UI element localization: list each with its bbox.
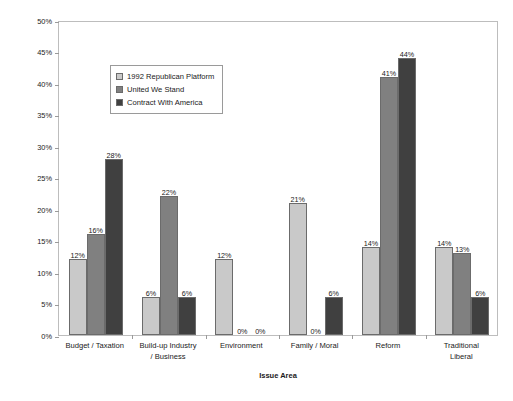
- y-tick-label: 10%: [37, 269, 52, 278]
- x-axis-category-line: Build-up Industry: [126, 341, 209, 352]
- bar: [289, 203, 307, 335]
- x-axis-category-line: Environment: [200, 341, 283, 352]
- legend-swatch-icon: [116, 73, 123, 80]
- bar: [142, 297, 160, 335]
- x-axis-separator-tick: [279, 335, 280, 339]
- bar-value-label: 22%: [153, 188, 185, 197]
- bar: [325, 297, 343, 335]
- y-tick-label: 5%: [41, 300, 52, 309]
- bar-value-label: 12%: [208, 251, 240, 260]
- x-axis-category-label: Reform: [346, 341, 429, 352]
- y-tick-mark: [55, 274, 59, 275]
- bar-value-label: 44%: [391, 50, 423, 59]
- x-axis-category-label: TraditionalLiberal: [420, 341, 503, 362]
- x-axis-category-label: Build-up Industry/ Business: [126, 341, 209, 362]
- y-tick-mark: [55, 305, 59, 306]
- y-tick-label: 25%: [37, 174, 52, 183]
- x-axis-category-label: Environment: [200, 341, 283, 352]
- y-tick-mark: [55, 337, 59, 338]
- y-tick-mark: [55, 179, 59, 180]
- y-tick-mark: [55, 148, 59, 149]
- bar-value-label: 28%: [98, 151, 130, 160]
- bar-chart: Percentage of Platform Dedicated to Issu…: [0, 0, 513, 401]
- bar: [435, 247, 453, 335]
- legend-swatch-icon: [116, 99, 123, 106]
- x-axis-category-line: / Business: [126, 352, 209, 363]
- y-tick-mark: [55, 22, 59, 23]
- bar: [178, 297, 196, 335]
- x-axis-category-label: Budget / Taxation: [53, 341, 136, 352]
- bar: [87, 234, 105, 335]
- x-axis-separator-tick: [132, 335, 133, 339]
- y-tick-label: 45%: [37, 48, 52, 57]
- y-tick-label: 35%: [37, 111, 52, 120]
- y-tick-label: 50%: [37, 17, 52, 26]
- legend-swatch-icon: [116, 86, 123, 93]
- legend-label: 1992 Republican Platform: [127, 72, 214, 81]
- legend-item: United We Stand: [116, 83, 214, 96]
- y-tick-mark: [55, 211, 59, 212]
- x-axis-separator-tick: [352, 335, 353, 339]
- bar: [105, 159, 123, 335]
- y-tick-mark: [55, 116, 59, 117]
- y-tick-mark: [55, 53, 59, 54]
- x-axis-separator-tick: [426, 335, 427, 339]
- legend-item: 1992 Republican Platform: [116, 70, 214, 83]
- chart-legend: 1992 Republican PlatformUnited We StandC…: [110, 65, 223, 114]
- legend-item: Contract With America: [116, 96, 214, 109]
- bar-value-label: 6%: [318, 289, 350, 298]
- x-axis-separator-tick: [206, 335, 207, 339]
- x-axis-title: Issue Area: [58, 371, 498, 380]
- x-axis-category-line: Family / Moral: [273, 341, 356, 352]
- bar: [69, 259, 87, 335]
- y-tick-label: 0%: [41, 332, 52, 341]
- x-axis-category-line: Reform: [346, 341, 429, 352]
- bar: [160, 196, 178, 335]
- y-tick-label: 15%: [37, 237, 52, 246]
- x-axis-category-line: Budget / Taxation: [53, 341, 136, 352]
- bar-value-label: 6%: [171, 289, 203, 298]
- bar: [471, 297, 489, 335]
- x-axis-category-line: Traditional: [420, 341, 503, 352]
- y-tick-label: 30%: [37, 143, 52, 152]
- bar-value-label: 6%: [464, 289, 496, 298]
- bar: [398, 58, 416, 335]
- x-axis-category-line: Liberal: [420, 352, 503, 363]
- bar-value-label: 21%: [282, 195, 314, 204]
- y-tick-mark: [55, 85, 59, 86]
- y-tick-label: 40%: [37, 80, 52, 89]
- x-axis-category-label: Family / Moral: [273, 341, 356, 352]
- bar-value-label: 13%: [446, 245, 478, 254]
- bar: [362, 247, 380, 335]
- y-tick-mark: [55, 242, 59, 243]
- bar: [380, 77, 398, 335]
- legend-label: United We Stand: [127, 85, 184, 94]
- legend-label: Contract With America: [127, 98, 203, 107]
- bar: [215, 259, 233, 335]
- bar-value-label: 0%: [244, 327, 276, 336]
- y-tick-label: 20%: [37, 206, 52, 215]
